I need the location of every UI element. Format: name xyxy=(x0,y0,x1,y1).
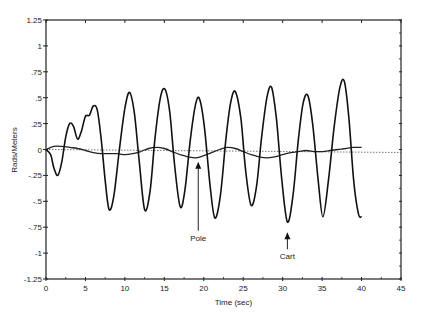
annotations: PoleCart xyxy=(190,162,295,262)
arrow-up-icon xyxy=(195,162,201,169)
y-tick-label: -1 xyxy=(35,249,43,258)
y-tick-label: -1.25 xyxy=(24,275,43,284)
y-axis-label: Rads/Meters xyxy=(10,127,19,172)
x-tick-label: 30 xyxy=(278,284,287,293)
y-tick-label: -.75 xyxy=(28,223,42,232)
annotation-pole: Pole xyxy=(190,162,207,243)
x-tick-label: 35 xyxy=(318,284,327,293)
y-tick-label: .25 xyxy=(31,120,43,129)
zero-baseline xyxy=(46,150,401,153)
plot-axes xyxy=(46,20,401,279)
x-tick-label: 5 xyxy=(83,284,88,293)
annotation-label: Cart xyxy=(280,252,296,261)
x-tick-label: 20 xyxy=(199,284,208,293)
y-tick-label: -.5 xyxy=(33,197,43,206)
x-tick-label: 10 xyxy=(120,284,129,293)
y-tick-label: 1.25 xyxy=(26,16,42,25)
x-tick-label: 25 xyxy=(239,284,248,293)
annotation-cart: Cart xyxy=(280,232,296,261)
x-tick-label: 45 xyxy=(397,284,406,293)
plot-frame xyxy=(46,20,401,279)
series-cart xyxy=(46,79,362,222)
x-tick-label: 40 xyxy=(357,284,366,293)
x-tick-label: 15 xyxy=(160,284,169,293)
y-tick-label: .5 xyxy=(35,94,42,103)
axis-ticks: 1.251.75.5.250-.25-.5-.75-1-1.2505101520… xyxy=(24,16,406,293)
annotation-label: Pole xyxy=(190,234,207,243)
line-chart: 1.251.75.5.250-.25-.5-.75-1-1.2505101520… xyxy=(0,0,421,319)
y-tick-label: .75 xyxy=(31,68,43,77)
x-tick-label: 0 xyxy=(44,284,49,293)
y-tick-label: -.25 xyxy=(28,171,42,180)
y-tick-label: 1 xyxy=(38,42,43,51)
series-pole xyxy=(46,146,362,158)
arrow-up-icon xyxy=(284,232,290,239)
y-tick-label: 0 xyxy=(38,146,43,155)
x-axis-label: Time (sec) xyxy=(215,298,253,307)
